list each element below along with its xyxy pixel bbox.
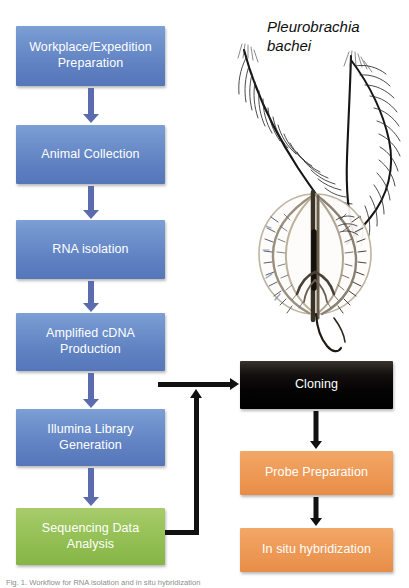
flow-box-in-situ-hybridization: In situ hybridization <box>240 528 393 572</box>
flow-arrow-down-5 <box>83 468 99 506</box>
flow-arrow-down-1 <box>83 88 99 123</box>
feedback-connector-arrowhead-up <box>190 389 202 398</box>
ctenophore-illustration <box>214 36 409 356</box>
flow-box-label: Illumina Library Generation <box>16 422 165 453</box>
flow-box-label: Probe Preparation <box>240 465 393 481</box>
arrow-shaft <box>88 88 94 115</box>
flow-box-label: Workplace/Expedition Preparation <box>16 40 165 71</box>
arrow-shaft <box>88 468 94 498</box>
arrow-shaft <box>88 373 94 400</box>
flow-box-sequencing-data-analysis: Sequencing Data Analysis <box>16 508 165 565</box>
flow-box-amplified-cdna-production: Amplified cDNA Production <box>16 313 165 371</box>
arrow-head <box>310 441 322 449</box>
flow-arrow-down-3 <box>83 281 99 312</box>
figure-caption: Fig. 1. Workflow for RNA isolation and i… <box>6 578 406 588</box>
arrow-shaft <box>88 281 94 304</box>
arrow-head <box>310 518 322 526</box>
arrow-shaft <box>314 497 319 518</box>
flow-box-label: Sequencing Data Analysis <box>16 521 165 552</box>
arrow-shaft <box>88 186 94 211</box>
flow-box-label: Animal Collection <box>16 147 165 163</box>
feedback-connector-segment-top <box>158 382 232 387</box>
flow-box-label: Cloning <box>240 377 393 393</box>
arrow-head <box>83 399 99 408</box>
flow-box-rna-isolation: RNA isolation <box>16 220 165 279</box>
flow-box-label: RNA isolation <box>16 242 165 258</box>
flow-arrow-down-2 <box>83 186 99 219</box>
flow-box-workplace-expedition-preparation: Workplace/Expedition Preparation <box>16 26 165 86</box>
flow-box-animal-collection: Animal Collection <box>16 125 165 184</box>
arrow-head <box>83 303 99 312</box>
arrow-head <box>83 497 99 506</box>
flow-box-label: Amplified cDNA Production <box>16 326 165 357</box>
figure-canvas: Workplace/Expedition Preparation Animal … <box>0 0 409 588</box>
flow-arrow-down-probe-to-insitu <box>309 497 323 526</box>
arrow-head <box>83 210 99 219</box>
flow-arrow-down-4 <box>83 373 99 408</box>
flow-box-label: In situ hybridization <box>240 542 393 558</box>
feedback-connector-segment-vertical <box>194 398 199 535</box>
feedback-connector-arrowhead-right <box>230 378 239 390</box>
flow-box-illumina-library-generation: Illumina Library Generation <box>16 409 165 466</box>
flow-box-probe-preparation: Probe Preparation <box>240 451 393 495</box>
flow-box-cloning: Cloning <box>240 361 393 409</box>
arrow-head <box>83 114 99 123</box>
arrow-shaft <box>314 411 319 441</box>
species-name-label: Pleurobrachia bachei <box>267 18 360 56</box>
flow-arrow-down-cloning-to-probe <box>309 411 323 449</box>
